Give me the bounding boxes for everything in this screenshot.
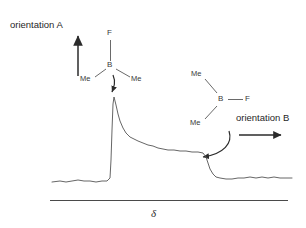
molecule-a-bonds xyxy=(95,40,130,77)
molecule-a-fluorine-label: F xyxy=(107,29,112,37)
nmr-orientation-diagram: orientation A orientation B F B Me Me Me… xyxy=(0,0,306,228)
orientation-a-label: orientation A xyxy=(10,20,63,30)
molecule-a-methyl-right-label: Me xyxy=(131,75,141,83)
orientation-b-label: orientation B xyxy=(236,113,289,123)
molecule-b-methyl-lower-label: Me xyxy=(190,119,200,127)
delta-axis-label: δ xyxy=(151,208,156,219)
peak-pointer-arrow xyxy=(112,75,115,92)
molecule-b-methyl-upper-label: Me xyxy=(191,70,201,78)
spectrum-trace xyxy=(52,97,292,182)
molecule-a-boron-label: B xyxy=(107,61,112,69)
molecule-b-fluorine-label: F xyxy=(245,95,250,103)
molecule-a-methyl-left-label: Me xyxy=(80,75,90,83)
shoulder-pointer-arrow xyxy=(203,131,230,157)
molecule-b-boron-label: B xyxy=(218,95,223,103)
